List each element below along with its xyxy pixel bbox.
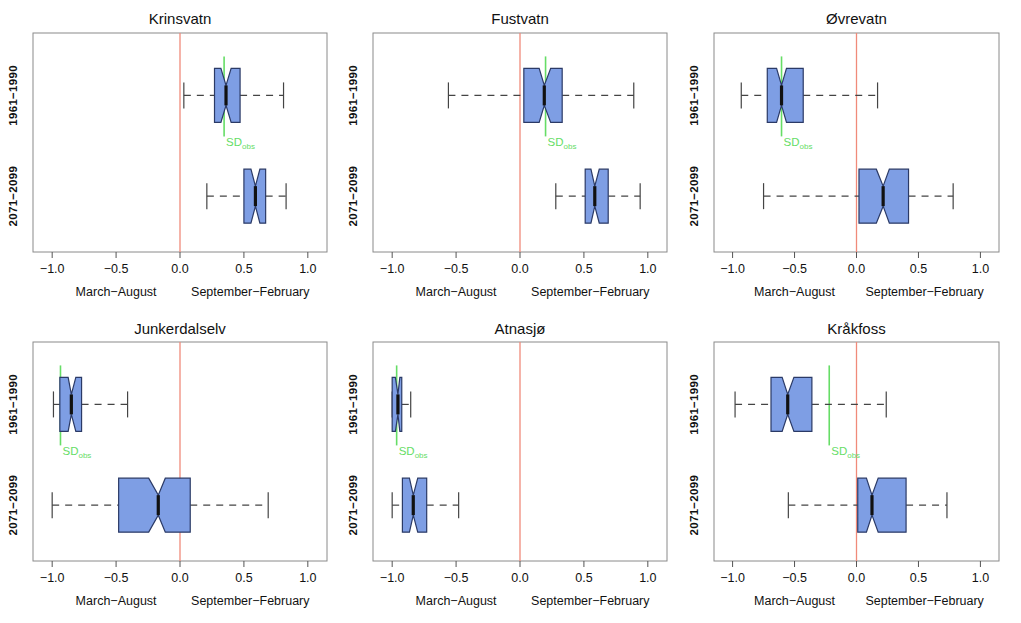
x-tick-label: 0.0 [171, 262, 188, 276]
boxplot-2071-2099 [52, 478, 268, 532]
y-category-label: 2071−2099 [688, 166, 700, 227]
sd-obs-label: SDobs [784, 136, 813, 151]
x-tick-label: 0.5 [575, 262, 592, 276]
x-tick-label: 0.0 [511, 262, 528, 276]
x-tick-label: 0.5 [910, 262, 927, 276]
box [771, 377, 812, 431]
boxplot-1961-1990 [392, 377, 411, 431]
season-label-right: September−February [191, 594, 310, 608]
season-label-left: March−August [754, 594, 835, 608]
x-tick-label: 1.0 [299, 571, 316, 585]
x-tick-label: −1.0 [380, 262, 405, 276]
y-category-label: 1961−1990 [347, 374, 359, 435]
x-tick-label: 0.0 [511, 571, 528, 585]
y-category-label: 1961−1990 [688, 374, 700, 435]
boxplot-1961-1990 [184, 68, 284, 122]
x-tick-label: 0.5 [575, 571, 592, 585]
x-tick-label: −1.0 [40, 262, 65, 276]
season-label-left: March−August [76, 594, 157, 608]
boxplot-figure: Krinsvatn−1.0−0.50.00.51.0March−AugustSe… [0, 0, 1021, 623]
season-label-right: September−February [191, 285, 310, 299]
y-category-label: 1961−1990 [347, 65, 359, 126]
panel-krinsvatn: Krinsvatn−1.0−0.50.00.51.0March−AugustSe… [0, 0, 340, 311]
x-tick-label: 0.0 [848, 571, 865, 585]
x-tick-label: 1.0 [639, 262, 656, 276]
panel-title: Atnasjø [495, 320, 546, 337]
y-category-label: 2071−2099 [347, 166, 359, 227]
x-tick-label: −1.0 [380, 571, 405, 585]
y-category-label: 2071−2099 [7, 166, 19, 227]
y-category-label: 2071−2099 [7, 475, 19, 536]
boxplot-1961-1990 [735, 377, 886, 431]
season-label-left: March−August [416, 594, 497, 608]
x-tick-label: 1.0 [639, 571, 656, 585]
boxplot-2071-2099 [764, 169, 954, 223]
panel--vrevatn: Øvrevatn−1.0−0.50.00.51.0March−AugustSep… [681, 0, 1021, 311]
season-label-right: September−February [531, 594, 650, 608]
panel-title: Fustvatn [491, 10, 549, 27]
boxplot-2071-2099 [207, 169, 286, 223]
x-tick-label: 0.0 [848, 262, 865, 276]
season-label-right: September−February [865, 285, 984, 299]
boxplot-2071-2099 [788, 478, 947, 532]
sd-obs-label: SDobs [548, 136, 577, 151]
season-label-left: March−August [416, 285, 497, 299]
panel-title: Krinsvatn [149, 10, 212, 27]
y-category-label: 2071−2099 [688, 475, 700, 536]
x-tick-label: −0.5 [104, 571, 129, 585]
panel-kr-kfoss: Kråkfoss−1.0−0.50.00.51.0March−AugustSep… [681, 312, 1021, 623]
box [119, 478, 191, 532]
x-tick-label: −0.5 [104, 262, 129, 276]
sd-obs-label: SDobs [226, 136, 255, 151]
x-tick-label: −1.0 [720, 262, 745, 276]
panel-title: Kråkfoss [827, 320, 885, 337]
y-category-label: 1961−1990 [688, 65, 700, 126]
x-tick-label: −0.5 [782, 571, 807, 585]
x-tick-label: 0.5 [235, 571, 252, 585]
boxplot-1961-1990 [448, 68, 633, 122]
boxplot-1961-1990 [53, 377, 127, 431]
season-label-left: March−August [754, 285, 835, 299]
x-tick-label: 1.0 [299, 262, 316, 276]
panel-junkerdalselv: Junkerdalselv−1.0−0.50.00.51.0March−Augu… [0, 312, 340, 623]
season-label-right: September−February [865, 594, 984, 608]
y-category-label: 2071−2099 [347, 475, 359, 536]
x-tick-label: −0.5 [444, 262, 469, 276]
y-category-label: 1961−1990 [7, 374, 19, 435]
y-category-label: 1961−1990 [7, 65, 19, 126]
panel-fustvatn: Fustvatn−1.0−0.50.00.51.0March−AugustSep… [340, 0, 680, 311]
x-tick-label: −1.0 [40, 571, 65, 585]
panel-title: Øvrevatn [826, 10, 887, 27]
sd-obs-label: SDobs [62, 445, 91, 460]
season-label-right: September−February [531, 285, 650, 299]
x-tick-label: 0.5 [235, 262, 252, 276]
box [585, 169, 608, 223]
season-label-left: March−August [76, 285, 157, 299]
boxplot-2071-2099 [556, 169, 640, 223]
boxplot-2071-2099 [392, 478, 458, 532]
x-tick-label: 0.5 [910, 571, 927, 585]
box [858, 478, 906, 532]
sd-obs-label: SDobs [399, 445, 428, 460]
x-tick-label: 1.0 [972, 262, 989, 276]
x-tick-label: −0.5 [782, 262, 807, 276]
x-tick-label: −1.0 [720, 571, 745, 585]
x-tick-label: 0.0 [171, 571, 188, 585]
x-tick-label: 1.0 [972, 571, 989, 585]
panel-title: Junkerdalselv [134, 320, 226, 337]
box [767, 68, 803, 122]
x-tick-label: −0.5 [444, 571, 469, 585]
panel-atnasj-: Atnasjø−1.0−0.50.00.51.0March−AugustSept… [340, 312, 680, 623]
sd-obs-label: SDobs [831, 445, 860, 460]
